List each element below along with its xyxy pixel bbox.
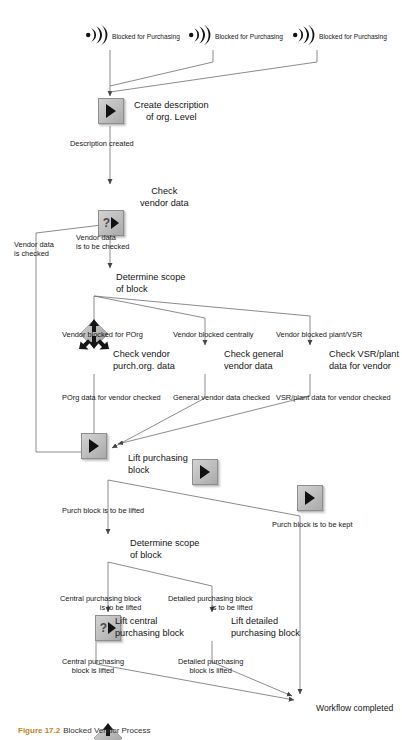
end-event-label: Workflow completed <box>316 703 393 714</box>
task-label-line1: Lift detailed <box>231 616 300 628</box>
figure-caption-number: Figure 17.2 <box>18 726 60 735</box>
lbl-vendor-data-is-checked: Vendor data is checked <box>14 240 54 259</box>
task-label-line1: Lift central <box>115 616 184 628</box>
start-event-label-1: Blocked for Purchasing <box>112 33 180 41</box>
start-event-blocked-for-purchasing-2[interactable] <box>187 22 213 48</box>
task-label-line1: Check vendor <box>113 349 175 361</box>
task-label-line2: vendor data <box>140 198 189 210</box>
task-lift-central-purchasing-block-label: Lift central purchasing block <box>115 616 184 640</box>
lbl-vsr-plant-data-checked: VSR/plant data for vendor checked <box>276 393 391 402</box>
gateway-label-line2: of block <box>116 284 185 296</box>
start-event-blocked-for-purchasing-1[interactable] <box>84 22 110 48</box>
task-create-description[interactable] <box>98 98 124 124</box>
task-label-line1: Create description <box>134 100 209 112</box>
signal-waves-icon <box>188 24 212 46</box>
start-event-blocked-for-purchasing-3[interactable] <box>291 22 317 48</box>
gateway-determine-scope-2-label: Determine scope of block <box>130 538 199 562</box>
task-label-line2: block <box>128 465 188 477</box>
lbl-porg-data-checked: POrg data for vendor checked <box>62 393 161 402</box>
lbl-vendor-blocked-centrally: Vendor blocked centrally <box>173 330 254 339</box>
workflow-diagram-canvas: Blocked for Purchasing Blocked for Purch… <box>0 0 402 740</box>
lbl-line1: Central purchasing <box>62 657 124 666</box>
lbl-purch-block-to-be-lifted: Purch block is to be lifted <box>62 506 144 515</box>
lbl-central-purchasing-block-lifted: Central purchasing block is lifted <box>62 657 124 676</box>
start-event-label-3: Blocked for Purchasing <box>319 33 387 41</box>
question-play-icon: ? <box>101 213 121 233</box>
signal-waves-icon <box>85 24 109 46</box>
task-check-general-vendor-data[interactable] <box>192 459 218 485</box>
task-label-line1: Check <box>140 186 189 198</box>
task-lift-detailed-purchasing-block-label: Lift detailed purchasing block <box>231 616 300 640</box>
lbl-detailed-purchasing-block-to-be-lifted: Detailed purchasing block is to be lifte… <box>168 594 253 613</box>
lbl-line2: block is lifted <box>62 666 124 675</box>
start-event-label-2: Blocked for Purchasing <box>215 33 283 41</box>
lbl-line2: block is lifted <box>178 666 243 675</box>
lbl-line1: Vendor data <box>76 233 129 242</box>
figure-caption-text: Blocked Vendor Process <box>63 726 150 735</box>
lbl-line1: Detailed purchasing block <box>168 594 253 603</box>
figure-caption: Figure 17.2Blocked Vendor Process <box>18 726 150 735</box>
task-lift-purchasing-block-label: Lift purchasing block <box>128 453 188 477</box>
task-check-vsr-plant-data[interactable] <box>297 485 323 511</box>
task-create-description-label: Create description of org. Level <box>134 100 209 124</box>
lbl-description-created: Description created <box>70 139 134 148</box>
task-label-line2: of org. Level <box>134 112 209 124</box>
lbl-purch-block-to-be-kept: Purch block is to be kept <box>272 520 353 529</box>
play-triangle-icon <box>84 436 104 456</box>
lbl-line1: Detailed purchasing <box>178 657 243 666</box>
play-triangle-icon <box>300 488 320 508</box>
task-label-line2: purchasing block <box>115 628 184 640</box>
task-label-line1: Lift purchasing <box>128 453 188 465</box>
lbl-line1: Central purchasing block <box>60 594 141 603</box>
task-label-line2: purch.org. data <box>113 361 175 373</box>
signal-waves-icon <box>292 24 316 46</box>
play-triangle-icon <box>195 462 215 482</box>
lbl-line2: is to be lifted <box>168 603 253 612</box>
lbl-vendor-blocked-porg: Vendor blocked for POrg <box>62 330 143 339</box>
lbl-vendor-blocked-plant-vsr: Vendor blocked plant/VSR <box>276 330 362 339</box>
lbl-central-purchasing-block-to-be-lifted: Central purchasing block is to be lifted <box>60 594 141 613</box>
lbl-line2: is checked <box>14 249 54 258</box>
task-label-line1: Check general <box>224 349 283 361</box>
task-check-vendor-data-label: Check vendor data <box>140 186 189 210</box>
lbl-line1: Vendor data <box>14 240 54 249</box>
task-label-line2: data for vendor <box>329 361 399 373</box>
lbl-general-vendor-data-checked: General vendor data checked <box>173 393 270 402</box>
lbl-line2: is to be checked <box>76 242 129 251</box>
lbl-detailed-purchasing-block-lifted: Detailed purchasing block is lifted <box>178 657 243 676</box>
gateway-label-line1: Determine scope <box>130 538 199 550</box>
lbl-line2: is to be lifted <box>60 603 141 612</box>
task-check-vendor-purch-org-data[interactable] <box>81 433 107 459</box>
play-triangle-icon <box>101 101 121 121</box>
gateway-determine-scope-1-label: Determine scope of block <box>116 272 185 296</box>
task-check-vendor-purch-org-data-label: Check vendor purch.org. data <box>113 349 175 373</box>
task-label-line2: purchasing block <box>231 628 300 640</box>
task-label-line1: Check VSR/plant <box>329 349 399 361</box>
task-label-line2: vendor data <box>224 361 283 373</box>
gateway-label-line2: of block <box>130 550 199 562</box>
lbl-vendor-data-is-to-be-checked: Vendor data is to be checked <box>76 233 129 252</box>
gateway-label-line1: Determine scope <box>116 272 185 284</box>
task-check-general-vendor-data-label: Check general vendor data <box>224 349 283 373</box>
task-check-vsr-plant-data-label: Check VSR/plant data for vendor <box>329 349 399 373</box>
